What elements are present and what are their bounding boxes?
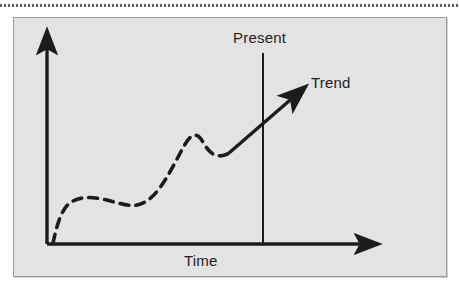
diagram-panel: Present Trend Time [13,17,447,277]
figure-root: Present Trend Time [0,0,459,289]
present-label: Present [233,29,286,46]
trend-projection-arrow [229,88,304,153]
time-axis-label: Time [184,252,218,269]
history-curve [53,135,229,243]
dotted-top-rule [0,4,459,7]
trend-label: Trend [311,74,351,91]
diagram-canvas [14,18,448,278]
